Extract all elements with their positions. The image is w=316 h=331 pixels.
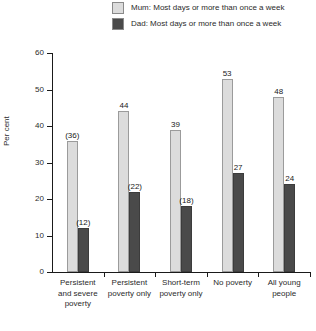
bar-group: (36)(12) (52, 53, 104, 272)
bar-value-label: 48 (274, 87, 283, 96)
legend-item-mum: Mum: Most days or more than once a week (112, 1, 316, 15)
x-axis-group-separator (258, 272, 259, 277)
bar-mum[interactable]: 53 (222, 79, 233, 272)
plot-area: 0102030405060 (36)(12)44(22)39(18)532748… (52, 53, 310, 272)
y-axis-tick-label: 20 (35, 194, 44, 203)
y-axis-tick-label: 30 (35, 158, 44, 167)
x-axis-category-label: No poverty (207, 278, 259, 289)
bar-dad[interactable]: (12) (78, 228, 89, 272)
bar-dad[interactable]: (22) (129, 192, 140, 272)
bar-dad[interactable]: 24 (284, 184, 295, 272)
x-axis-category-label: Persistentpoverty only (104, 278, 156, 299)
x-axis-group-separator (310, 272, 311, 277)
bar-dad[interactable]: (18) (181, 206, 192, 272)
bar-mum[interactable]: 44 (118, 111, 129, 272)
bar-mum[interactable]: 48 (273, 97, 284, 272)
bar-value-label: (18) (179, 196, 193, 205)
legend-item-dad: Dad: Most days or more than once a week (112, 17, 316, 31)
bar-mum[interactable]: (36) (67, 141, 78, 272)
x-axis-group-separator (207, 272, 208, 277)
legend-swatch-dad (112, 18, 124, 30)
bar-value-label: 44 (119, 101, 128, 110)
bar-value-label: (12) (76, 218, 90, 227)
y-axis-tick: 0 (47, 272, 52, 273)
x-axis-group-separator (104, 272, 105, 277)
bar-dad[interactable]: 27 (233, 173, 244, 272)
bar-value-label: 24 (285, 174, 294, 183)
x-axis-category-label: Persistentand severepoverty (52, 278, 104, 310)
bar-value-label: 53 (223, 69, 232, 78)
y-axis-tick-label: 40 (35, 121, 44, 130)
bar-value-label: 27 (234, 163, 243, 172)
bar-group: 44(22) (104, 53, 156, 272)
chart-legend: Mum: Most days or more than once a week … (112, 1, 316, 33)
y-axis-tick-label: 0 (40, 267, 44, 276)
bar-value-label: 39 (171, 120, 180, 129)
bar-value-label: (36) (65, 131, 79, 140)
legend-label-dad: Dad: Most days or more than once a week (131, 19, 281, 29)
legend-label-mum: Mum: Most days or more than once a week (131, 3, 284, 13)
x-axis-category-label: All youngpeople (258, 278, 310, 299)
y-axis-title: Per cent (2, 116, 11, 146)
x-axis-line (52, 272, 310, 273)
bar-group: 5327 (207, 53, 259, 272)
y-axis-tick-label: 50 (35, 85, 44, 94)
bar-value-label: (22) (128, 182, 142, 191)
bar-group: 4824 (258, 53, 310, 272)
x-axis-group-separator (155, 272, 156, 277)
legend-swatch-mum (112, 2, 124, 14)
y-axis-tick-label: 10 (35, 231, 44, 240)
x-axis-category-label: Short-termpoverty only (155, 278, 207, 299)
bar-group: 39(18) (155, 53, 207, 272)
y-axis-tick-label: 60 (35, 48, 44, 57)
